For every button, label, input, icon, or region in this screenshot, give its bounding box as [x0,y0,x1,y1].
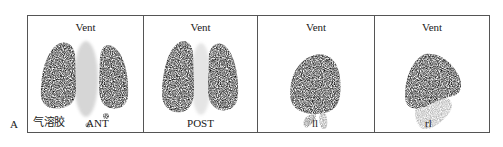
panel-title: Vent [28,21,143,33]
view-label: POST [144,117,257,129]
lung-scan-posterior [144,34,258,129]
panel-posterior: Vent POST [144,16,258,132]
panel-right-lateral: Vent rl [375,16,489,132]
view-label: ANT [86,117,109,129]
figure-label: A [10,118,18,130]
panel-title: Vent [258,21,374,33]
lung-scan-right-lateral [375,34,491,129]
view-label: ll [312,117,318,129]
panel-title: Vent [375,21,489,33]
panel-title: Vent [144,21,257,33]
view-label: rl [425,117,432,129]
scintigraphy-figure: Vent 气溶胶 ANT Vent POST [27,15,490,133]
tracer-label: 气溶胶 [33,113,65,129]
lung-scan-left-lateral [258,34,375,129]
panel-anterior: Vent 气溶胶 ANT [28,16,144,132]
panel-left-lateral: Vent ll [258,16,375,132]
